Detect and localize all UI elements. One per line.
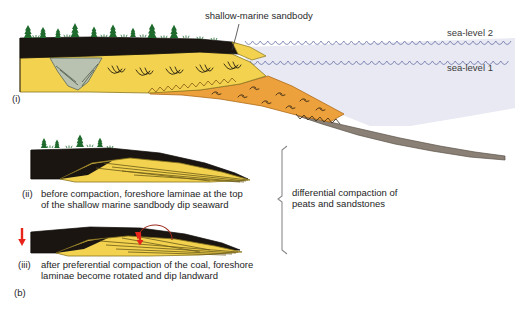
bracket-label-line1: differential compaction of [292, 187, 398, 198]
panel-iii-diagram [31, 227, 242, 256]
figure-label: (b) [14, 287, 26, 298]
sea-water-body [243, 38, 515, 126]
conifer-tree [91, 27, 98, 37]
geology-diagram-svg: shallow-marine sandbody sea-level 2 sea-… [0, 0, 522, 311]
conifer-tree [71, 23, 80, 37]
bracket-label-line2: peats and sandstones [292, 198, 385, 209]
panel-ii-caption-line1: before compaction, foreshore laminae at … [41, 188, 243, 199]
conifer-tree [39, 27, 46, 38]
panel-ii-caption-line2: of the shallow marine sandbody dip seawa… [41, 199, 228, 210]
conifer-tree [24, 25, 32, 38]
conifer-tree [170, 25, 178, 38]
sea-level-1-label: sea-level 1 [447, 62, 493, 73]
panel-ii-diagram [31, 134, 250, 182]
panel-iii-caption-line1: after preferential compaction of the coa… [41, 259, 253, 270]
conifer-tree [130, 28, 136, 37]
sandbody-annotation: shallow-marine sandbody [205, 10, 313, 21]
conifer-tree [109, 25, 117, 37]
panel-iii-caption-line2: laminae become rotated and dip landward [41, 270, 218, 281]
conifer-tree [55, 28, 61, 38]
conifer-tree [147, 23, 156, 38]
differential-compaction-bracket [278, 146, 287, 254]
figure-container: shallow-marine sandbody sea-level 2 sea-… [0, 0, 522, 311]
sea-level-2-label: sea-level 2 [447, 27, 493, 38]
panel-i-label: (i) [12, 93, 20, 104]
compaction-arrow-left-icon [18, 228, 26, 246]
panel-iii-label: (iii) [18, 259, 31, 270]
panel-ii-label: (ii) [22, 188, 33, 199]
